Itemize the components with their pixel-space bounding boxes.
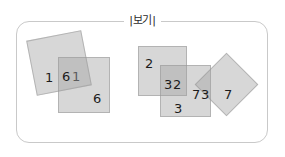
caption-right-bar: | — [152, 15, 156, 27]
caption-text: 보기 — [133, 15, 153, 27]
figure-frame — [16, 21, 268, 143]
figure-caption: |보기| — [124, 13, 161, 29]
figure-canvas: 1 1 6 6 2 3 2 3 7 3 7 |보기| — [0, 0, 285, 157]
